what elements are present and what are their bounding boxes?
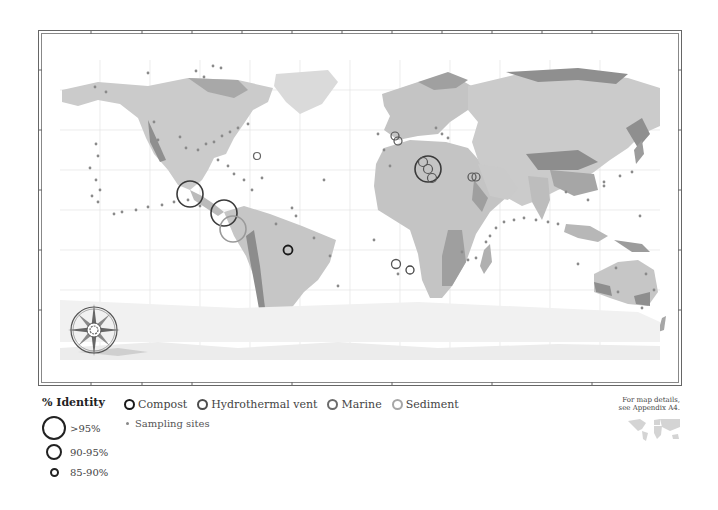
large-ring-icon xyxy=(42,416,66,440)
compost-ring-icon xyxy=(124,399,135,410)
world-map-svg xyxy=(38,30,682,386)
sampling-site-dot-icon xyxy=(126,422,129,425)
identity-level-label: 85-90% xyxy=(70,467,108,478)
identity-level-low: 85-90% xyxy=(50,463,122,481)
world-map[interactable] xyxy=(38,30,682,386)
appendix-note: For map details, see Appendix A4. xyxy=(618,396,680,412)
legend-label: Marine xyxy=(341,398,381,411)
sampling-sites-label: Sampling sites xyxy=(135,418,210,429)
medium-ring-icon xyxy=(46,444,62,460)
identity-level-label: 90-95% xyxy=(70,447,108,458)
identity-legend-title: % Identity xyxy=(42,396,122,409)
legend-label: Hydrothermal vent xyxy=(211,398,317,411)
sediment-ring-icon xyxy=(392,399,403,410)
legend-label: Compost xyxy=(138,398,187,411)
legend-item-hydrothermal-vent: Hydrothermal vent xyxy=(197,398,317,411)
marine-ring-icon xyxy=(327,399,338,410)
identity-level-mid: 90-95% xyxy=(46,441,122,463)
legend-item-sediment: Sediment xyxy=(392,398,459,411)
appendix-thumbnail-map[interactable] xyxy=(626,415,682,443)
environment-type-legend: Compost Hydrothermal vent Marine Sedimen… xyxy=(124,398,459,411)
appendix-note-line2: see Appendix A4. xyxy=(618,404,680,412)
legend-item-marine: Marine xyxy=(327,398,381,411)
identity-level-high: >95% xyxy=(42,415,122,441)
small-ring-icon xyxy=(50,468,59,477)
legend-item-compost: Compost xyxy=(124,398,187,411)
legend-label: Sediment xyxy=(406,398,459,411)
appendix-note-line1: For map details, xyxy=(618,396,680,404)
identity-level-label: >95% xyxy=(70,423,101,434)
hydrothermal-vent-ring-icon xyxy=(197,399,208,410)
sampling-sites-legend: Sampling sites xyxy=(126,418,210,429)
antarctica xyxy=(60,342,660,360)
identity-legend: % Identity >95% 90-95% 85-90% xyxy=(42,396,122,481)
